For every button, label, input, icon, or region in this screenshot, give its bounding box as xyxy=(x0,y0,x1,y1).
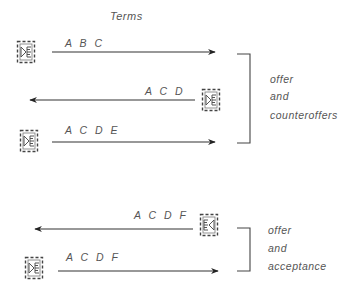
document-send-icon xyxy=(203,90,220,111)
diagram-title: Terms xyxy=(110,10,143,22)
group-offer-and-acceptance xyxy=(26,215,251,279)
message-terms: A C D E xyxy=(65,124,118,136)
message-terms: A B C xyxy=(65,37,103,49)
document-receive-icon xyxy=(201,215,218,236)
caption-line: and xyxy=(268,242,287,254)
document-send-icon xyxy=(18,42,35,63)
diagram-canvas xyxy=(0,0,358,292)
caption-line: and xyxy=(270,90,289,102)
message-terms: A C D xyxy=(145,85,183,97)
caption-line: counteroffers xyxy=(270,109,338,121)
bracket xyxy=(237,54,250,143)
caption-line: offer xyxy=(270,73,294,85)
message-terms: A C D F xyxy=(66,251,118,263)
caption-line: offer xyxy=(268,224,292,236)
bracket xyxy=(237,228,250,271)
document-send-icon xyxy=(21,131,38,152)
document-send-icon xyxy=(26,258,43,279)
group-offer-and-counteroffers xyxy=(18,42,251,152)
message-terms: A C D F xyxy=(134,209,186,221)
caption-line: acceptance xyxy=(268,260,327,272)
